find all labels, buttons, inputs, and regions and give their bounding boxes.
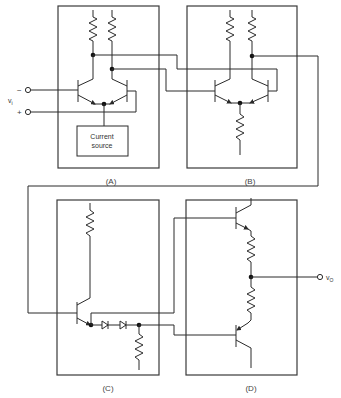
transistor-c [77, 302, 90, 325]
diode-2 [120, 321, 126, 329]
resistor-a-left [89, 10, 97, 55]
resistor-c-bias [135, 325, 143, 370]
input-minus-terminal [25, 87, 30, 92]
diode-1 [102, 321, 108, 329]
resistor-c-collector [77, 203, 94, 305]
current-source-label-line1: Current [90, 133, 113, 140]
current-source-box [77, 126, 128, 156]
block-c: (C) [57, 200, 159, 393]
block-b-label: (B) [245, 177, 256, 186]
input-plus-sign: + [17, 108, 22, 117]
transistor-a-right [110, 69, 127, 104]
block-c-label: (C) [102, 384, 113, 393]
output-terminal [317, 274, 322, 279]
wire-a-left-to-b-right-base [93, 55, 277, 69]
current-source-label-line2: source [91, 142, 112, 149]
block-a: Current source − + vi (A) [8, 6, 159, 186]
block-c-frame [57, 200, 159, 375]
circuit-diagram: Current source − + vi (A) [0, 0, 341, 398]
input-minus-sign: − [17, 86, 22, 95]
block-a-label: (A) [106, 177, 117, 186]
output-voltage-label: vO [326, 274, 334, 283]
resistor-a-right [108, 10, 116, 69]
transistor-b-left [215, 79, 231, 103]
resistor-d-lower [247, 277, 255, 323]
wire-c-to-d-lower-base [139, 325, 236, 335]
transistor-b-right [250, 79, 268, 103]
wire-c-to-d-upper-base [91, 218, 236, 325]
transistor-d-upper [236, 198, 251, 229]
resistor-b-tail [236, 103, 244, 155]
transistor-d-lower [236, 323, 251, 368]
input-voltage-label: vi [8, 97, 13, 106]
resistor-d-upper [247, 229, 255, 277]
block-b-frame [187, 6, 297, 168]
block-b: (B) [187, 6, 297, 186]
wire-b-to-c [28, 56, 318, 313]
input-plus-terminal [25, 109, 30, 114]
block-d-label: (D) [245, 384, 256, 393]
block-d: vO (D) [186, 198, 334, 393]
transistor-a-left [78, 55, 95, 104]
